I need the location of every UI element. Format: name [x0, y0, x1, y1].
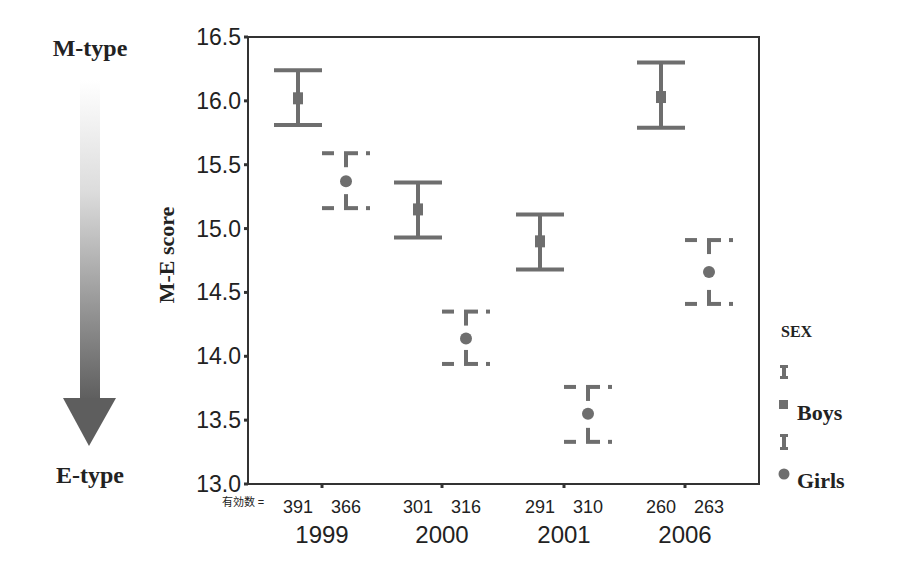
error-bars: [274, 63, 733, 442]
series-boys: [274, 63, 685, 270]
x-axis-labels: 有効数 =39136619993013162000291310200126026…: [222, 484, 724, 548]
x-category-label: 2001: [537, 521, 590, 548]
x-category-label: 2000: [415, 521, 468, 548]
legend: SEXBoysGirls: [779, 323, 846, 493]
girls-mean-marker: [582, 408, 594, 420]
e-type-label: E-type: [56, 462, 124, 488]
boys-mean-marker: [413, 203, 423, 215]
chart: M-type E-type M-E score 13.013.514.014.5…: [0, 0, 909, 578]
legend-girls-circle-icon: [779, 469, 790, 480]
plot-frame: [248, 37, 759, 484]
legend-title: SEX: [781, 323, 813, 340]
boys-mean-marker: [293, 92, 303, 104]
gradient-down-arrow-icon: [63, 80, 116, 446]
boys-mean-marker: [656, 91, 666, 103]
boys-mean-marker: [535, 235, 545, 247]
n-value-girls: 310: [573, 497, 603, 517]
m-type-label: M-type: [53, 35, 128, 61]
legend-boys-square-icon: [779, 400, 788, 409]
y-tick-label: 16.5: [196, 24, 241, 50]
girls-mean-marker: [703, 266, 715, 278]
n-value-boys: 260: [646, 497, 676, 517]
n-value-boys: 291: [525, 497, 555, 517]
x-category-label: 1999: [295, 521, 348, 548]
girls-mean-marker: [340, 175, 352, 187]
y-axis-label: M-E score: [154, 206, 179, 303]
y-tick-label: 16.0: [196, 88, 241, 114]
n-value-girls: 263: [694, 497, 724, 517]
n-value-girls: 316: [451, 497, 481, 517]
n-value-boys: 301: [403, 497, 433, 517]
y-axis-ticks: 13.013.514.014.515.015.516.016.5: [196, 24, 248, 497]
legend-label-boys: Boys: [797, 400, 843, 425]
girls-mean-marker: [460, 332, 472, 344]
y-tick-label: 15.0: [196, 216, 241, 242]
y-tick-label: 13.0: [196, 471, 241, 497]
series-girls: [322, 153, 733, 442]
x-category-label: 2006: [658, 521, 711, 548]
n-label: 有効数 =: [222, 495, 264, 508]
n-value-boys: 391: [283, 497, 313, 517]
y-tick-label: 15.5: [196, 152, 241, 178]
y-tick-label: 14.0: [196, 343, 241, 369]
y-tick-label: 13.5: [196, 407, 241, 433]
legend-label-girls: Girls: [797, 468, 845, 493]
y-tick-label: 14.5: [196, 279, 241, 305]
n-value-girls: 366: [331, 497, 361, 517]
